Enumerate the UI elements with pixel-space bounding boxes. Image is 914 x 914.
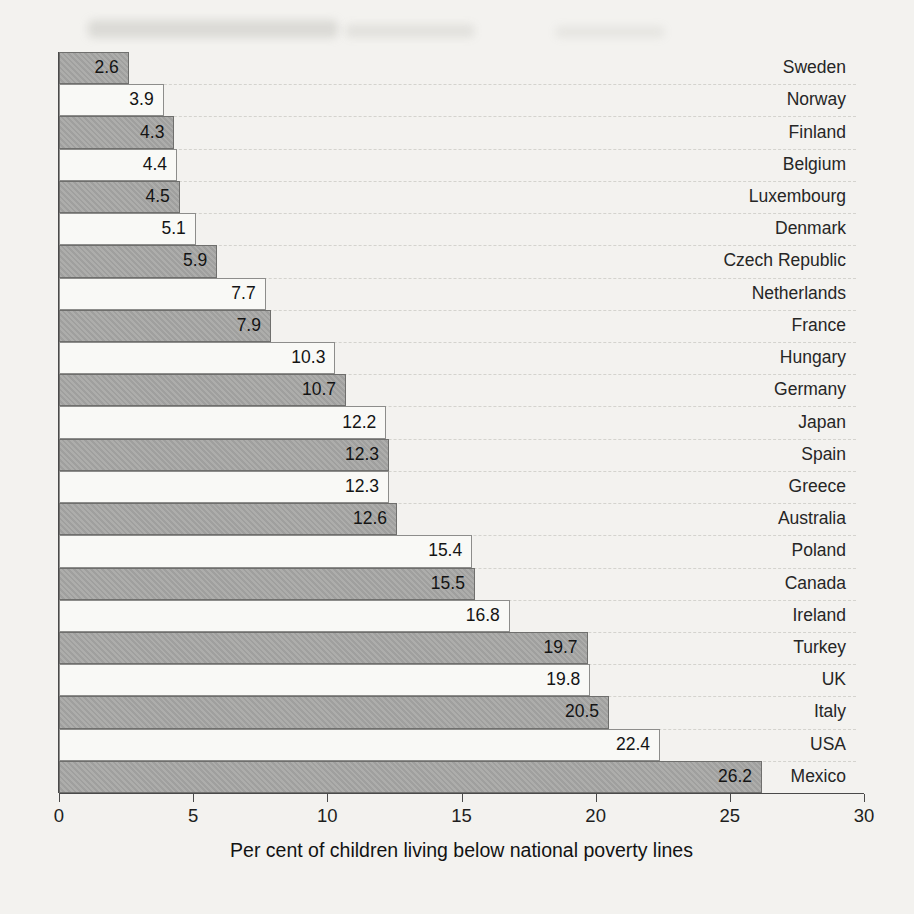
- bar-value-label: 20.5: [565, 702, 599, 723]
- bar-row: 5.1 Denmark: [59, 213, 864, 245]
- bar: 15.5: [59, 568, 475, 600]
- bar-value-label: 4.5: [145, 186, 169, 207]
- country-label: Belgium: [783, 154, 846, 175]
- country-label: Hungary: [780, 347, 846, 368]
- bar-value-label: 5.9: [183, 251, 207, 272]
- bar-value-label: 16.8: [466, 605, 500, 626]
- country-label: Japan: [798, 412, 846, 433]
- bar: 19.7: [59, 632, 588, 664]
- country-label: USA: [810, 734, 846, 755]
- x-axis-tick-label: 10: [317, 805, 338, 827]
- bar: 10.3: [59, 342, 335, 374]
- bar: 4.5: [59, 181, 180, 213]
- x-axis-tick: [327, 794, 328, 802]
- country-label: Czech Republic: [723, 251, 846, 272]
- bar-value-label: 15.4: [428, 540, 462, 561]
- country-label: Mexico: [791, 766, 846, 787]
- scan-bleed-smudge: [88, 20, 338, 38]
- bar: 7.9: [59, 310, 271, 342]
- bar-value-label: 2.6: [94, 57, 118, 78]
- country-label: Australia: [778, 508, 846, 529]
- country-label: Turkey: [793, 637, 846, 658]
- bar: 5.1: [59, 213, 196, 245]
- bar-value-label: 19.7: [544, 637, 578, 658]
- bar-value-label: 26.2: [718, 766, 752, 787]
- x-axis-tick-label: 20: [585, 805, 606, 827]
- bar-value-label: 12.3: [345, 476, 379, 497]
- bar-value-label: 10.3: [291, 347, 325, 368]
- country-label: Italy: [814, 702, 846, 723]
- bar: 16.8: [59, 600, 510, 632]
- bar-row: 12.6 Australia: [59, 503, 864, 535]
- bar-row: 10.7 Germany: [59, 374, 864, 406]
- bar-row: 22.4 USA: [59, 729, 864, 761]
- country-label: Luxembourg: [749, 186, 846, 207]
- bar-value-label: 12.6: [353, 508, 387, 529]
- bar: 26.2: [59, 761, 762, 793]
- country-label: France: [792, 315, 846, 336]
- country-label: Denmark: [775, 218, 846, 239]
- bar: 12.6: [59, 503, 397, 535]
- bar: 19.8: [59, 664, 590, 696]
- bar-value-label: 12.2: [342, 412, 376, 433]
- bar-row: 10.3 Hungary: [59, 342, 864, 374]
- bar-value-label: 19.8: [546, 669, 580, 690]
- bar-row: 4.4 Belgium: [59, 149, 864, 181]
- country-label: Germany: [774, 379, 846, 400]
- bar-value-label: 4.4: [143, 154, 167, 175]
- bar-row: 3.9 Norway: [59, 84, 864, 116]
- bar: 7.7: [59, 278, 266, 310]
- bar: 10.7: [59, 374, 346, 406]
- country-label: Poland: [792, 540, 847, 561]
- country-label: Greece: [789, 476, 846, 497]
- bar: 5.9: [59, 245, 217, 277]
- x-axis-tick: [864, 794, 865, 802]
- bar: 12.3: [59, 439, 389, 471]
- bar: 2.6: [59, 52, 129, 84]
- x-axis-tick: [193, 794, 194, 802]
- bar-chart-plot-area: 2.6 Sweden 3.9 Norway 4.3 Finland 4.4 Be…: [58, 52, 864, 793]
- bar-row: 16.8 Ireland: [59, 600, 864, 632]
- country-label: Ireland: [792, 605, 846, 626]
- bar: 15.4: [59, 535, 472, 567]
- scan-bleed-smudge: [555, 26, 665, 38]
- bar-value-label: 15.5: [431, 573, 465, 594]
- bar-row: 19.8 UK: [59, 664, 864, 696]
- country-label: Sweden: [783, 57, 846, 78]
- bar-value-label: 22.4: [616, 734, 650, 755]
- bar-row: 12.3 Spain: [59, 439, 864, 471]
- bar-row: 20.5 Italy: [59, 696, 864, 728]
- bar-row: 4.5 Luxembourg: [59, 181, 864, 213]
- bar: 4.3: [59, 116, 174, 148]
- x-axis-title: Per cent of children living below nation…: [59, 839, 864, 862]
- bar-row: 12.2 Japan: [59, 406, 864, 438]
- bar: 12.3: [59, 471, 389, 503]
- country-label: Netherlands: [752, 283, 846, 304]
- bar: 12.2: [59, 406, 386, 438]
- bar-row: 19.7 Turkey: [59, 632, 864, 664]
- bar-row: 12.3 Greece: [59, 471, 864, 503]
- x-axis-tick-label: 25: [720, 805, 741, 827]
- country-label: Norway: [787, 89, 846, 110]
- country-label: UK: [822, 669, 846, 690]
- bar-value-label: 5.1: [162, 218, 186, 239]
- bar-row: 15.5 Canada: [59, 568, 864, 600]
- x-axis-tick: [462, 794, 463, 802]
- x-axis-tick-label: 0: [54, 805, 64, 827]
- x-axis-tick: [730, 794, 731, 802]
- x-axis-tick: [59, 794, 60, 802]
- bar-row: 26.2 Mexico: [59, 761, 864, 793]
- x-axis-tick: [596, 794, 597, 802]
- bar-row: 4.3 Finland: [59, 116, 864, 148]
- bar-row: 2.6 Sweden: [59, 52, 864, 84]
- bar: 4.4: [59, 149, 177, 181]
- bar-value-label: 12.3: [345, 444, 379, 465]
- country-label: Finland: [789, 122, 846, 143]
- country-label: Spain: [801, 444, 846, 465]
- bar: 22.4: [59, 729, 660, 761]
- bar-value-label: 10.7: [302, 379, 336, 400]
- country-label: Canada: [785, 573, 846, 594]
- bar-row: 7.7 Netherlands: [59, 278, 864, 310]
- bar-value-label: 7.7: [231, 283, 255, 304]
- scan-bleed-smudge: [345, 24, 475, 38]
